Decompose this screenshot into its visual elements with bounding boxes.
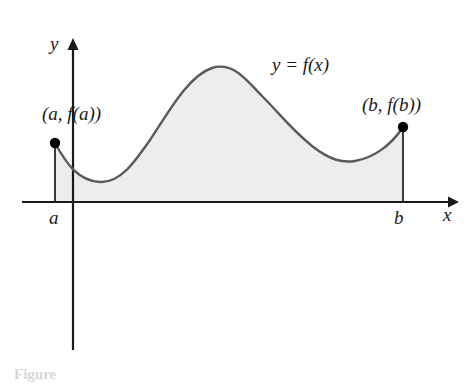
point-label-b: (b, f(b)) — [362, 95, 421, 114]
y-axis-arrowhead — [68, 38, 79, 50]
x-axis-label: x — [443, 205, 451, 224]
tick-label-b: b — [394, 208, 404, 227]
graph-canvas — [0, 0, 472, 384]
endpoint-marker-b — [398, 122, 408, 132]
y-axis-label: y — [50, 34, 58, 53]
tick-label-a: a — [49, 208, 59, 227]
figure-container: y x a b (a, f(a)) (b, f(b)) y = f(x) Fig… — [0, 0, 472, 384]
caption-partial-text: Figure — [14, 368, 56, 383]
point-label-a: (a, f(a)) — [42, 104, 101, 123]
endpoint-marker-a — [50, 138, 60, 148]
caption-strip: Figure — [0, 368, 472, 384]
curve-equation-label: y = f(x) — [272, 55, 329, 74]
